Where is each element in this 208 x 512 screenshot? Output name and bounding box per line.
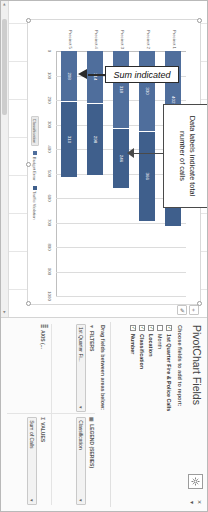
data-labels-callout: Data labels indicate total number of cal… <box>163 104 207 208</box>
pivotchart-fields-pane: PivotChart Fields × ▾ Choose fi <box>1 317 207 511</box>
legend-swatch-0 <box>33 151 37 155</box>
pane-divider <box>110 322 111 507</box>
field-pill-values[interactable]: Sum of Calls▾ <box>27 417 37 505</box>
sum-indicated-annotation: Sum indicated <box>105 66 179 83</box>
field-pill-legend[interactable]: Classification▾ <box>77 417 87 505</box>
areas-section[interactable]: ▼FILTERS1st Quarter Fi...▾▦LEGEND (SERIE… <box>7 324 95 505</box>
area-header: ▼FILTERS <box>89 324 95 412</box>
chart-legend[interactable]: Classification Budget Error Traffic Viol… <box>31 116 39 220</box>
callout-arrow-head <box>127 148 134 158</box>
area-axis[interactable]: ≣AXIS (... <box>7 324 46 412</box>
data-label: 298 <box>93 136 97 143</box>
bar-segment[interactable]: 298 <box>87 104 103 177</box>
field-row[interactable]: Month <box>156 325 165 505</box>
scrollbar-thumb[interactable] <box>2 19 7 115</box>
field-row[interactable]: ✓Number <box>129 325 138 505</box>
value-axis-tick: 300 <box>47 121 52 128</box>
value-axis-tick: 400 <box>47 145 52 152</box>
area-title: VALUES <box>40 422 46 442</box>
field-checkbox-0[interactable]: ✓ <box>167 325 173 331</box>
value-axis-tick: 0 <box>47 50 52 52</box>
data-label: 318 <box>119 86 123 93</box>
category-axis-label: Precinct 3 <box>119 21 123 49</box>
data-label: 246 <box>119 155 123 162</box>
area-title: AXIS (... <box>40 330 46 349</box>
resize-handle[interactable] <box>26 162 31 167</box>
field-row[interactable]: ✓1st Quarter Fire & Police Calls <box>165 325 174 505</box>
table-row[interactable]: 208310 <box>61 51 77 178</box>
legend-label-0: Budget Error <box>33 157 38 181</box>
gridline <box>56 296 186 297</box>
field-pill-filters[interactable]: 1st Quarter Fi...▾ <box>77 324 87 412</box>
area-header: ▦LEGEND (SERIES) <box>89 417 95 505</box>
bar-segment[interactable]: 366 <box>139 132 155 222</box>
field-list[interactable]: ✓1st Quarter Fire & Police CallsMonth✓Lo… <box>129 325 174 505</box>
chart-side-buttons[interactable]: + ✐ <box>177 305 199 315</box>
drag-fields-label: Drag fields between areas below: <box>100 325 106 410</box>
bar-segment[interactable]: 246 <box>113 129 129 189</box>
gear-icon[interactable] <box>188 474 203 489</box>
field-checkbox-2[interactable]: ✓ <box>149 325 155 331</box>
field-row[interactable]: ✓Classification <box>138 325 147 505</box>
legend-swatch-1 <box>33 186 37 190</box>
value-axis-tick: 800 <box>47 243 52 250</box>
close-icon[interactable]: × <box>196 500 203 504</box>
value-axis-tick: 900 <box>47 268 52 275</box>
legend-label-1: Traffic Violation <box>33 191 38 220</box>
field-checkbox-1[interactable] <box>158 325 164 331</box>
category-axis-label: Precinct 2 <box>145 21 149 49</box>
gridline <box>56 272 186 273</box>
resize-handle[interactable] <box>197 18 202 23</box>
area-header: ≣AXIS (... <box>40 324 46 412</box>
value-axis-tick: 100 <box>47 72 52 79</box>
area-filters[interactable]: ▼FILTERS1st Quarter Fi...▾ <box>56 324 95 412</box>
resize-handle[interactable] <box>26 18 31 23</box>
field-label: Number <box>131 334 137 354</box>
data-label: 330 <box>145 87 149 94</box>
field-label: 1st Quarter Fire & Police Calls <box>167 334 173 411</box>
data-label: 366 <box>145 173 149 180</box>
data-label: 310 <box>67 136 71 143</box>
horizontal-scrollbar[interactable]: ◂ ▸ <box>1 1 9 317</box>
resize-handle[interactable] <box>26 301 31 306</box>
chart-styles-button[interactable]: ✐ <box>177 305 187 315</box>
field-checkbox-3[interactable]: ✓ <box>140 325 146 331</box>
chevron-down-icon[interactable]: ▾ <box>79 499 85 502</box>
field-label: Month <box>158 334 164 349</box>
table-row[interactable]: 214298 <box>87 51 103 176</box>
value-axis-tick: 500 <box>47 170 52 177</box>
chevron-down-icon[interactable]: ▾ <box>29 499 35 502</box>
pane-header: PivotChart Fields × ▾ <box>185 318 207 511</box>
chevron-down-icon[interactable]: ▾ <box>79 406 85 409</box>
area-title: FILTERS <box>89 331 95 351</box>
category-axis-label: Precinct 5 <box>67 21 71 49</box>
category-axis-label: Precinct 4 <box>93 21 97 49</box>
bar-segment[interactable]: 208 <box>61 51 77 102</box>
scroll-left-icon[interactable]: ◂ <box>2 1 7 7</box>
bar-segment[interactable]: 318 <box>113 51 129 129</box>
data-label: 402 <box>171 96 175 103</box>
area-values[interactable]: ΣVALUESSum of Calls▾ <box>7 417 46 505</box>
field-label: Classification <box>140 334 146 369</box>
field-row[interactable]: ✓Location <box>147 325 156 505</box>
resize-handle[interactable] <box>197 301 202 306</box>
value-axis-tick: 1000 <box>47 291 52 301</box>
scroll-right-icon[interactable]: ▸ <box>2 309 7 315</box>
area-legend[interactable]: ▦LEGEND (SERIES)Classification▾ <box>56 417 95 505</box>
sum-annotation-arrow-head <box>78 69 87 79</box>
worksheet-area[interactable]: 1st Quarter Calls Precinct 1402318Precin… <box>1 1 207 317</box>
axis-icon: ≣ <box>40 324 46 328</box>
category-axis-label: Precinct 1 <box>171 21 175 49</box>
bar-segment[interactable]: 310 <box>61 102 77 178</box>
field-checkbox-4[interactable]: ✓ <box>131 325 137 331</box>
legend-item: Budget Error <box>33 151 38 180</box>
areas-horizontal-divider <box>51 324 52 505</box>
bar-segment[interactable]: 330 <box>139 51 155 132</box>
filter-icon: ▼ <box>89 324 95 329</box>
gridline <box>56 247 186 248</box>
sigma-icon: Σ <box>40 417 46 420</box>
chevron-down-icon[interactable]: ▾ <box>189 501 195 504</box>
bar-segment[interactable]: 214 <box>87 51 103 104</box>
field-label: Location <box>149 334 155 356</box>
chart-elements-button[interactable]: + <box>189 305 199 315</box>
